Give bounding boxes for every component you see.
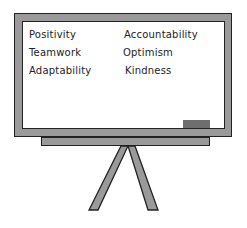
easel-legs <box>0 0 247 228</box>
